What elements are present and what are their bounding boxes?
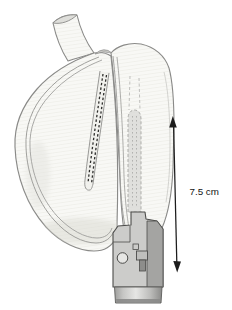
stapler-latch-slider [140, 260, 146, 271]
measurement-arrowhead-bottom [173, 261, 181, 273]
stapler-latch [137, 251, 148, 260]
stapler-shaft-bottom-edge [116, 299, 161, 303]
anvil-rod [128, 110, 141, 212]
measurement-arrow-shaft [174, 126, 177, 262]
measurement-label: 7.5 cm [190, 186, 219, 197]
stapler-device [113, 212, 163, 303]
measurement: 7.5 cm [169, 116, 219, 273]
stapler-head-dark-side [147, 221, 163, 287]
gastroplasty-illustration: 7.5 cm [0, 0, 232, 310]
illustration-canvas: 7.5 cm [0, 0, 232, 310]
stomach-opened [15, 50, 126, 251]
stapler-pin-hole [117, 253, 128, 264]
esophagus [53, 15, 94, 61]
